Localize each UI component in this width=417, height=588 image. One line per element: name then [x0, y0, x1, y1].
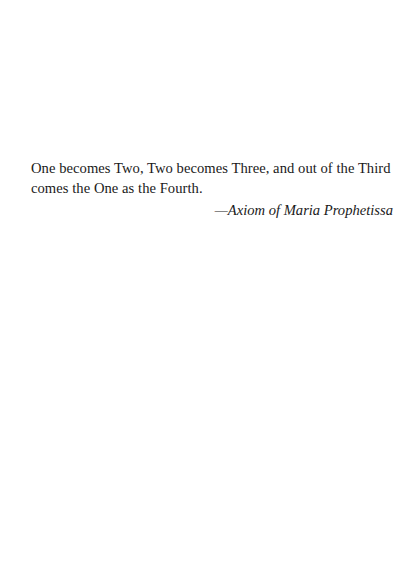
- epigraph: One becomes Two, Two becomes Three, and …: [31, 158, 393, 220]
- epigraph-quote: One becomes Two, Two becomes Three, and …: [31, 158, 393, 198]
- epigraph-attribution: —Axiom of Maria Prophetissa: [31, 200, 393, 220]
